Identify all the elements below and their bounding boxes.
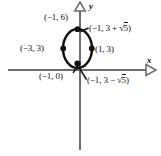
- point-label-upper-focus-suffix: ): [128, 23, 131, 33]
- point-label-upper-focus: (−1, 3 + √5): [89, 24, 131, 33]
- point-label-upper-focus-prefix: (−1, 3 +: [89, 23, 119, 33]
- ellipse-graph-figure: (−1, 6) (−1, 3 + √5) (−3, 3) (1, 3) (−1,…: [0, 0, 161, 156]
- point-label-top-vertex: (−1, 6): [44, 13, 68, 22]
- sqrt-icon-upper: √5: [119, 24, 128, 33]
- point-label-right-vertex: (1, 3): [95, 45, 114, 54]
- point-label-lower-focus-prefix: (−1, 3 −: [87, 75, 117, 85]
- point-top-vertex: [75, 26, 81, 32]
- point-label-lower-focus: (−1, 3 − √5): [87, 76, 129, 85]
- x-axis-arrowhead: [146, 65, 156, 76]
- y-axis-arrowhead: [75, 2, 85, 11]
- x-axis-label: x: [147, 56, 152, 65]
- point-label-lower-focus-suffix: ): [126, 75, 129, 85]
- point-left-vertex: [60, 46, 66, 52]
- point-right-vertex: [89, 46, 95, 52]
- graph-canvas: [0, 0, 161, 156]
- sqrt-icon-lower: √5: [117, 76, 126, 85]
- point-label-left-vertex: (−3, 3): [20, 44, 44, 53]
- point-label-bottom-vertex: (−1, 0): [39, 72, 63, 81]
- y-axis-label: y: [89, 2, 93, 11]
